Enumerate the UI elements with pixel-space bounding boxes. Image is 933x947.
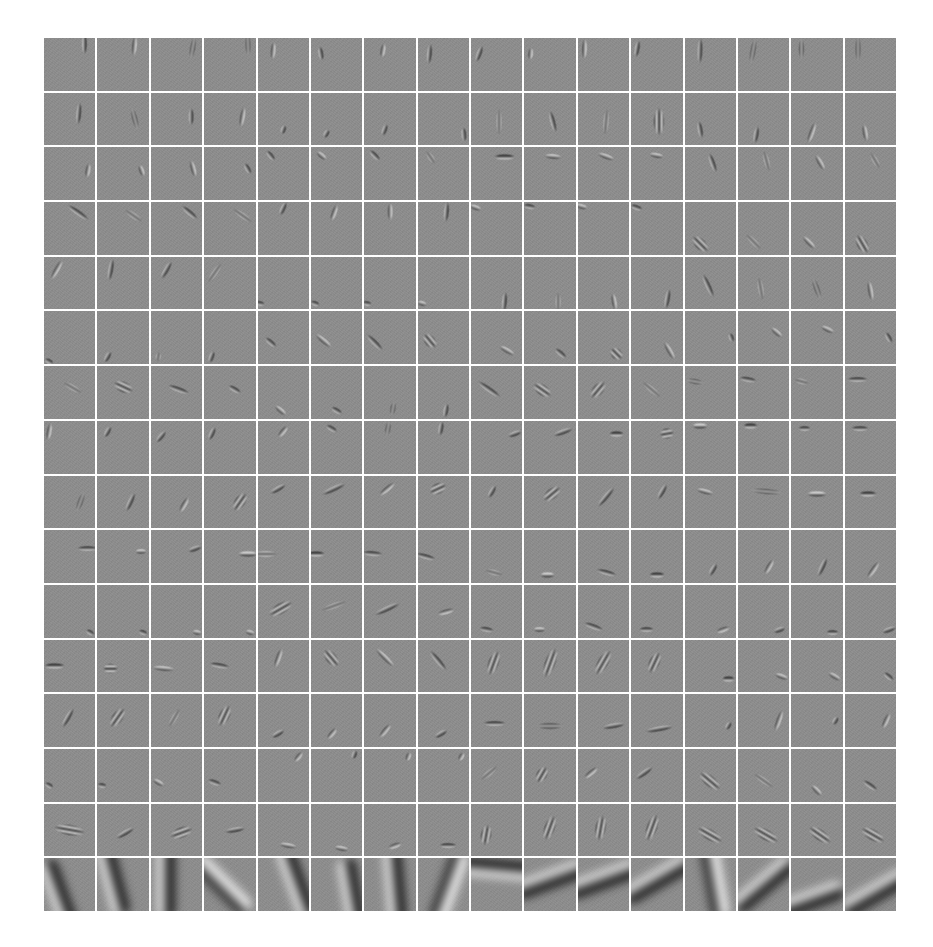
filter-pattern <box>685 377 704 387</box>
filter-pattern <box>524 858 575 906</box>
filter-tile <box>845 749 896 802</box>
filter-pattern <box>101 424 114 439</box>
filter-pattern <box>593 814 609 841</box>
filter-pattern <box>751 823 781 847</box>
filter-pattern <box>644 650 664 676</box>
filter-tile <box>97 311 148 364</box>
filter-pattern <box>74 102 83 126</box>
filter-tile <box>791 257 842 310</box>
filter-tile <box>631 93 682 146</box>
filter-tile <box>311 38 362 91</box>
filter-tile <box>685 694 736 747</box>
filter-tile <box>311 694 362 747</box>
filter-pattern <box>364 332 385 354</box>
filter-tile <box>311 366 362 419</box>
filter-tile <box>845 804 896 857</box>
filter-pattern <box>475 379 502 401</box>
filter-pattern <box>649 150 665 160</box>
filter-pattern <box>169 823 195 842</box>
filter-tile <box>524 311 575 364</box>
filter-tile <box>791 311 842 364</box>
filter-pattern <box>804 120 819 144</box>
filter-pattern <box>58 706 76 730</box>
filter-tile <box>204 38 255 91</box>
filter-tile <box>631 366 682 419</box>
filter-tile <box>418 585 469 638</box>
filter-tile <box>685 530 736 583</box>
filter-tile <box>631 749 682 802</box>
filter-pattern <box>496 109 503 135</box>
filter-tile <box>685 804 736 857</box>
filter-pattern <box>751 125 761 144</box>
filter-tile <box>631 257 682 310</box>
filter-pattern <box>865 280 876 302</box>
filter-tile <box>204 202 255 255</box>
filter-pattern <box>224 825 246 836</box>
filter-tile <box>44 804 95 857</box>
filter-tile <box>524 530 575 583</box>
filter-tile <box>364 858 415 911</box>
filter-tile <box>524 749 575 802</box>
filter-tile <box>258 38 309 91</box>
filter-pattern <box>279 841 298 851</box>
filter-pattern <box>320 646 342 669</box>
filter-tile <box>738 585 789 638</box>
filter-tile <box>738 421 789 474</box>
filter-tile <box>97 257 148 310</box>
filter-pattern <box>524 202 536 211</box>
filter-pattern <box>154 351 163 362</box>
filter-pattern <box>552 424 574 438</box>
filter-pattern <box>105 258 116 282</box>
filter-tile <box>738 147 789 200</box>
filter-pattern <box>187 159 199 178</box>
filter-pattern <box>83 163 93 179</box>
filter-tile <box>204 147 255 200</box>
filter-tile <box>151 421 202 474</box>
filter-pattern <box>699 273 717 299</box>
filter-tile <box>845 421 896 474</box>
filter-pattern <box>695 823 725 847</box>
filter-tile <box>44 311 95 364</box>
filter-tile <box>44 38 95 91</box>
filter-tile <box>524 694 575 747</box>
filter-pattern <box>403 751 413 763</box>
filter-pattern <box>151 777 166 790</box>
filter-pattern <box>881 669 896 683</box>
filter-pattern <box>706 561 720 578</box>
filter-tile <box>151 257 202 310</box>
filter-tile <box>631 858 682 911</box>
filter-tile <box>791 421 842 474</box>
filter-pattern <box>540 571 555 578</box>
filter-pattern <box>179 203 199 222</box>
filter-pattern <box>791 873 842 911</box>
filter-tile <box>685 476 736 529</box>
filter-pattern <box>269 858 309 911</box>
filter-pattern <box>206 349 217 364</box>
filter-tile <box>97 585 148 638</box>
filter-pattern <box>649 571 664 578</box>
filter-pattern <box>807 490 828 497</box>
filter-tile <box>97 202 148 255</box>
filter-tile <box>738 530 789 583</box>
filter-pattern <box>44 780 55 792</box>
filter-tile <box>738 93 789 146</box>
filter-pattern <box>772 624 787 635</box>
filter-pattern <box>270 727 287 741</box>
filter-tile <box>204 366 255 419</box>
filter-pattern <box>750 486 781 496</box>
filter-pattern <box>244 38 252 55</box>
filter-tile <box>524 366 575 419</box>
filter-pattern <box>471 202 482 213</box>
filter-pattern <box>478 625 494 635</box>
filter-pattern <box>418 299 428 309</box>
filter-pattern <box>379 122 390 137</box>
filter-tile <box>471 530 522 583</box>
filter-pattern <box>44 662 65 669</box>
filter-tile <box>791 804 842 857</box>
filter-tile <box>738 366 789 419</box>
filter-pattern <box>292 750 306 765</box>
filter-tile <box>685 147 736 200</box>
filter-pattern <box>578 858 629 906</box>
filter-pattern <box>692 422 707 429</box>
filter-tile <box>685 93 736 146</box>
